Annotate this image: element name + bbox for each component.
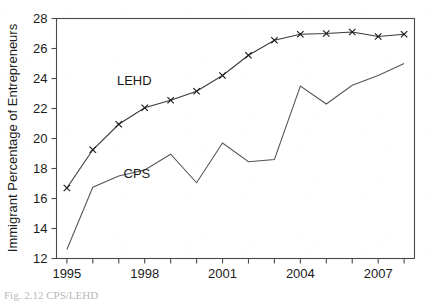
y-tick-label: 18 [33, 161, 47, 176]
y-axis-tick-labels: 121416182022242628 [33, 11, 47, 266]
y-tick-label: 12 [33, 251, 47, 266]
y-axis-title: Immigrant Percentage of Entrepreneurs [5, 23, 20, 252]
x-tick-label: 1995 [52, 266, 81, 281]
x-tick-label: 2007 [364, 266, 393, 281]
y-tick-label: 14 [33, 221, 47, 236]
series-label-cps: CPS [124, 166, 151, 181]
x-axis-tick-labels: 19951998200120042007 [52, 266, 392, 281]
y-tick-label: 28 [33, 11, 47, 26]
chart-container: 121416182022242628 19951998200120042007 … [0, 0, 428, 302]
y-tick-label: 16 [33, 191, 47, 206]
caption-strip: Fig. 2.12 CPS/LEHD [0, 292, 428, 302]
series-label-lehd: LEHD [117, 73, 152, 88]
immigrant-entrepreneurs-line-chart: 121416182022242628 19951998200120042007 … [0, 0, 428, 302]
series-markers-lehd [64, 29, 408, 191]
y-tick-label: 22 [33, 101, 47, 116]
y-tick-label: 20 [33, 131, 47, 146]
series-line-cps [67, 64, 404, 250]
y-axis-ticks [52, 19, 57, 259]
x-tick-label: 1998 [130, 266, 159, 281]
x-axis-ticks [67, 259, 404, 264]
x-tick-label: 2004 [286, 266, 315, 281]
x-tick-label: 2001 [208, 266, 237, 281]
figure-caption-partial: Fig. 2.12 CPS/LEHD [4, 292, 98, 301]
y-tick-label: 24 [33, 71, 47, 86]
plot-frame [57, 19, 415, 259]
y-axis-title-group: Immigrant Percentage of Entrepreneurs [5, 23, 20, 252]
y-tick-label: 26 [33, 41, 47, 56]
series-line-lehd [67, 32, 404, 188]
